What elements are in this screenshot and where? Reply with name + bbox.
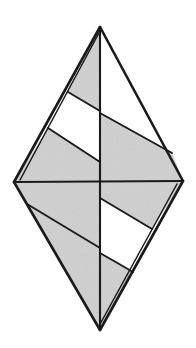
figure-root: Twisted bipyramid / skew antiprism line … xyxy=(0,0,196,348)
twisted-bipyramid-svg: Twisted bipyramid / skew antiprism line … xyxy=(0,0,196,348)
horizontal-axis-line xyxy=(14,181,183,182)
